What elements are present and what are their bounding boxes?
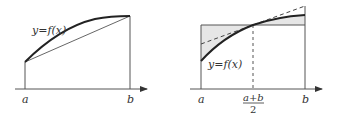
left-figure: y=f(x) a b xyxy=(15,16,147,106)
left-chord xyxy=(25,16,130,62)
right-curve-label: y=f(x) xyxy=(207,58,242,71)
right-label-mid-denominator: 2 xyxy=(250,104,256,115)
right-shade-left xyxy=(201,25,253,61)
left-curve-label: y=f(x) xyxy=(31,24,66,37)
left-label-a: a xyxy=(22,93,29,106)
left-label-b: b xyxy=(127,93,134,106)
right-label-b: b xyxy=(302,93,309,106)
right-label-mid-numerator: a+b xyxy=(243,92,264,103)
right-figure: y=f(x) a a+b 2 b xyxy=(190,6,322,115)
integration-diagrams: y=f(x) a b y=f(x) a a+b 2 b xyxy=(0,0,339,117)
right-label-a: a xyxy=(198,93,205,106)
